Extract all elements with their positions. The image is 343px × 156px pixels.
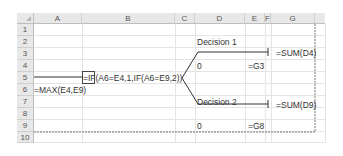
- cell-e4[interactable]: =G3: [248, 61, 264, 72]
- cell-d2[interactable]: Decision 1: [197, 37, 237, 48]
- cell-d7[interactable]: Decision 2: [197, 97, 237, 108]
- cell-d9[interactable]: 0: [197, 121, 202, 132]
- cell-b5[interactable]: =IF(A6=E4,1,IF(A6=E9,2)): [83, 73, 182, 84]
- cell-e9[interactable]: =G8: [248, 121, 264, 132]
- cell-g3[interactable]: =SUM(D4): [276, 48, 316, 59]
- selection-indicator: [82, 71, 95, 84]
- cell-g8[interactable]: =SUM(D9): [276, 100, 316, 111]
- cell-d4[interactable]: 0: [197, 61, 202, 72]
- cell-a6[interactable]: =MAX(E4,E9): [34, 85, 86, 96]
